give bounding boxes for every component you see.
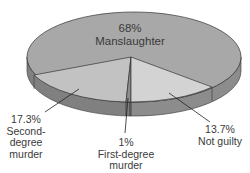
label-manslaughter: 68% Manslaughter xyxy=(90,22,170,48)
label-not-guilty-name: Not guilty xyxy=(192,136,248,148)
label-second-degree-line3: murder xyxy=(2,149,50,161)
label-manslaughter-pct: 68% xyxy=(90,22,170,35)
label-first-degree-line2: murder xyxy=(88,160,164,172)
label-second-degree: 17.3% Second- degree murder xyxy=(2,114,50,160)
label-second-degree-line2: degree xyxy=(2,137,50,149)
label-first-degree-pct: 1% xyxy=(88,137,164,149)
label-not-guilty-pct: 13.7% xyxy=(192,124,248,136)
label-manslaughter-name: Manslaughter xyxy=(90,35,170,48)
label-second-degree-pct: 17.3% xyxy=(2,114,50,126)
label-not-guilty: 13.7% Not guilty xyxy=(192,124,248,147)
label-first-degree: 1% First-degree murder xyxy=(88,137,164,172)
